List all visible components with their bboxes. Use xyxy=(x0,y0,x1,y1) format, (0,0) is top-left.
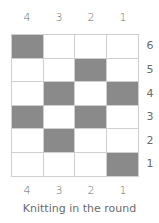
filled-stitch-cell xyxy=(75,106,107,130)
filled-stitch-cell xyxy=(107,82,139,106)
empty-stitch-cell xyxy=(12,153,44,177)
empty-stitch-cell xyxy=(75,82,107,106)
empty-stitch-cell xyxy=(44,106,76,130)
empty-stitch-cell xyxy=(44,35,76,59)
column-label: 2 xyxy=(75,184,107,197)
row-label: 4 xyxy=(145,87,155,100)
filled-stitch-cell xyxy=(44,129,76,153)
empty-stitch-cell xyxy=(44,59,76,83)
empty-stitch-cell xyxy=(75,129,107,153)
filled-stitch-cell xyxy=(12,35,44,59)
empty-stitch-cell xyxy=(107,129,139,153)
knitting-chart-grid xyxy=(11,34,139,177)
empty-stitch-cell xyxy=(107,106,139,130)
empty-stitch-cell xyxy=(75,35,107,59)
row-label: 5 xyxy=(145,63,155,76)
column-label: 2 xyxy=(75,11,107,24)
filled-stitch-cell xyxy=(12,106,44,130)
empty-stitch-cell xyxy=(107,35,139,59)
filled-stitch-cell xyxy=(107,153,139,177)
column-label: 1 xyxy=(107,11,139,24)
empty-stitch-cell xyxy=(12,129,44,153)
chart-caption: Knitting in the round xyxy=(0,202,159,215)
column-label: 1 xyxy=(107,184,139,197)
column-label: 3 xyxy=(43,184,75,197)
row-label: 3 xyxy=(145,110,155,123)
filled-stitch-cell xyxy=(75,59,107,83)
row-label: 2 xyxy=(145,134,155,147)
empty-stitch-cell xyxy=(107,59,139,83)
column-label: 4 xyxy=(11,184,43,197)
empty-stitch-cell xyxy=(44,153,76,177)
empty-stitch-cell xyxy=(12,59,44,83)
column-label: 3 xyxy=(43,11,75,24)
row-label: 6 xyxy=(145,39,155,52)
column-label: 4 xyxy=(11,11,43,24)
row-label: 1 xyxy=(145,157,155,170)
filled-stitch-cell xyxy=(44,82,76,106)
empty-stitch-cell xyxy=(12,82,44,106)
empty-stitch-cell xyxy=(75,153,107,177)
